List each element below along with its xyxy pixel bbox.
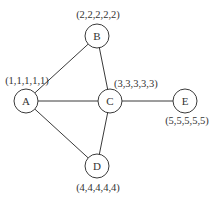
edge-a-d	[26, 101, 97, 166]
node-b: B	[85, 24, 109, 48]
node-d: D	[85, 154, 109, 178]
node-label: B	[93, 30, 100, 42]
node-label: D	[93, 160, 101, 172]
coordinate-label-a: (1,1,1,1,1)	[5, 75, 49, 87]
node-label: C	[106, 95, 113, 107]
coordinate-label-d: (4,4,4,4,4)	[76, 182, 120, 194]
node-label: A	[22, 95, 30, 107]
coordinate-label-c: (3,3,3,3,3)	[114, 78, 158, 90]
node-c: C	[98, 89, 122, 113]
edge-a-b	[26, 36, 97, 101]
coordinate-label-e: (5,5,5,5,5)	[165, 115, 209, 127]
node-e: E	[173, 89, 197, 113]
coordinate-label-b: (2,2,2,2,2)	[76, 9, 120, 21]
node-label: E	[182, 95, 189, 107]
node-a: A	[14, 89, 38, 113]
graph-diagram: ABCDE (1,1,1,1,1)(2,2,2,2,2)(3,3,3,3,3)(…	[0, 0, 218, 205]
